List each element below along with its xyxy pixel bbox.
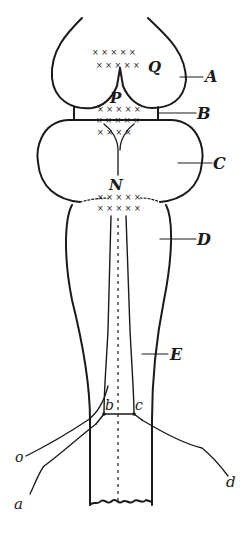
crosses-q-2: × × × × × xyxy=(96,61,140,70)
label-d-lower: d xyxy=(226,473,236,491)
brain-diagram: × × × × × × × × × × × × × × × × × × × × … xyxy=(0,0,249,546)
crosses-n-1: × × × × × xyxy=(97,193,141,202)
label-q: Q xyxy=(148,58,161,76)
label-p: P xyxy=(109,89,122,107)
b-c-bar xyxy=(96,414,142,424)
stem-right xyxy=(152,205,171,505)
label-b-lower: b xyxy=(105,397,114,413)
label-n: N xyxy=(108,176,124,194)
crosses-q-1: × × × × × xyxy=(92,48,136,57)
tract-left xyxy=(104,216,111,414)
tract-right xyxy=(126,216,134,414)
leader-a xyxy=(30,424,96,494)
leader-o xyxy=(26,386,108,456)
leader-d xyxy=(142,420,228,476)
label-c-lower: c xyxy=(135,397,143,413)
label-a-lower: a xyxy=(14,495,23,513)
label-c: C xyxy=(213,154,226,173)
label-d: D xyxy=(196,230,211,249)
crosses-n-2: × × × × × xyxy=(97,204,141,213)
stem-left xyxy=(66,205,90,505)
crosses-p-3: × × × × xyxy=(97,128,131,137)
label-b: B xyxy=(196,104,211,123)
label-a: A xyxy=(203,67,217,86)
label-e: E xyxy=(169,345,183,364)
label-o: o xyxy=(15,449,23,465)
crosses-p-2: × × × × × xyxy=(96,116,140,125)
cut-edge xyxy=(90,500,152,505)
